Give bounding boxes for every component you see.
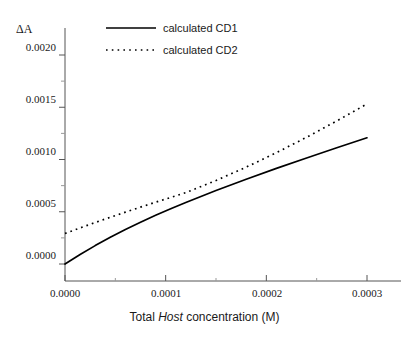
series-line-2 bbox=[65, 104, 367, 234]
legend-label-cd1: calculated CD1 bbox=[163, 22, 238, 34]
x-axis-title-suffix: concentration (M) bbox=[183, 310, 280, 324]
x-axis-title-prefix: Total bbox=[129, 310, 158, 324]
series-line-1 bbox=[65, 138, 367, 264]
x-tick-label: 0.0001 bbox=[136, 287, 196, 299]
y-tick-label: 0.0020 bbox=[8, 41, 56, 53]
y-axis-title: ΔA bbox=[16, 22, 32, 37]
y-tick-label: 0.0015 bbox=[8, 93, 56, 105]
x-tick-label: 0.0000 bbox=[35, 287, 95, 299]
data-series-group bbox=[65, 104, 367, 264]
y-tick-label: 0.0005 bbox=[8, 197, 56, 209]
legend-label-cd2: calculated CD2 bbox=[163, 44, 238, 56]
y-tick-label: 0.0000 bbox=[8, 249, 56, 261]
y-axis-major-ticks bbox=[59, 55, 65, 264]
x-tick-label: 0.0002 bbox=[237, 287, 297, 299]
chart-figure: ΔA 0.0000 0.0005 0.0010 0.0015 0.0020 0.… bbox=[0, 0, 409, 338]
legend-swatches bbox=[106, 28, 156, 50]
x-axis-title: Total Host concentration (M) bbox=[0, 310, 409, 324]
x-tick-label: 0.0003 bbox=[337, 287, 397, 299]
axes bbox=[65, 28, 401, 281]
x-axis-title-emphasis: Host bbox=[158, 310, 183, 324]
y-tick-label: 0.0010 bbox=[8, 145, 56, 157]
